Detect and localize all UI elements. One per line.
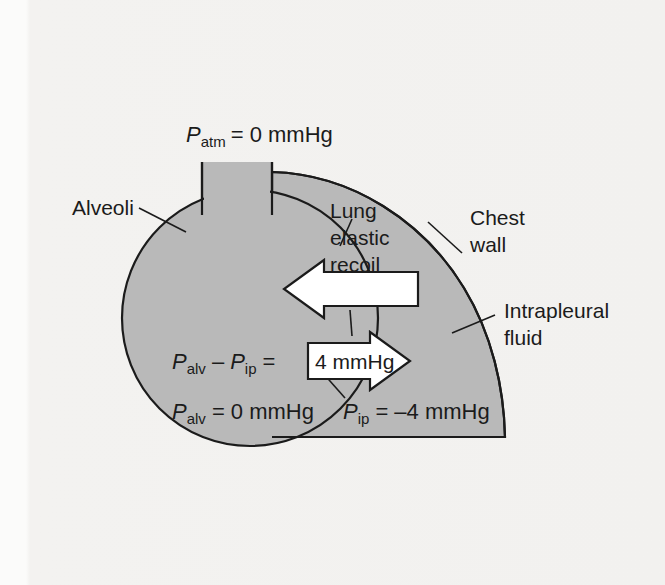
ip-value: = –4 mmHg — [375, 399, 489, 424]
intrapleural-label-line2: fluid — [504, 326, 543, 349]
eqn-subscript-1: alv — [187, 360, 207, 377]
atm-subscript: atm — [201, 133, 226, 150]
figure-container: Patm= 0 mmHg Alveoli Chest wall Intraple… — [0, 0, 665, 585]
eqn-minus: – — [212, 349, 225, 374]
eqn-subscript-2: ip — [245, 360, 257, 377]
chest-wall-label-line2: wall — [469, 233, 506, 256]
intrapleural-label-line1: Intrapleural — [504, 299, 609, 322]
lung-pressure-diagram: Patm= 0 mmHg Alveoli Chest wall Intraple… — [0, 0, 665, 585]
eqn-equals: = — [263, 349, 276, 374]
atm-symbol: P — [186, 122, 201, 147]
atm-pressure-label: Patm= 0 mmHg — [186, 122, 333, 150]
ip-subscript: ip — [358, 410, 370, 427]
alveoli-label: Alveoli — [72, 196, 134, 219]
recoil-label-line1: Lung — [330, 199, 377, 222]
eqn-symbol-2: P — [230, 349, 245, 374]
recoil-label-line3: recoil — [330, 253, 380, 276]
ip-symbol: P — [343, 399, 358, 424]
alv-symbol: P — [172, 399, 187, 424]
eqn-symbol-1: P — [172, 349, 187, 374]
chest-wall-label-line1: Chest — [470, 206, 525, 229]
alv-subscript: alv — [187, 410, 207, 427]
airway-join-fill — [204, 163, 270, 212]
pressure-arrow-value: 4 mmHg — [315, 350, 394, 373]
atm-value: = 0 mmHg — [231, 122, 333, 147]
airway-join — [202, 162, 272, 215]
alv-value: = 0 mmHg — [212, 399, 314, 424]
svg-text:Patm= 0 mmHg: Patm= 0 mmHg — [186, 122, 333, 150]
recoil-label-line2: elastic — [330, 226, 390, 249]
